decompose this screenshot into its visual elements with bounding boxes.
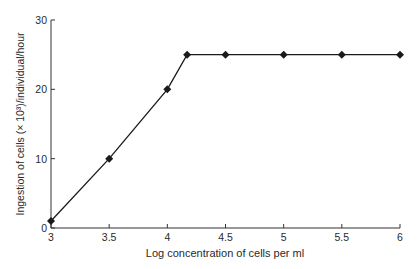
y-axis-label: Ingestion of cells (× 10³)/individual/ho… bbox=[14, 32, 26, 215]
data-point-diamond bbox=[396, 51, 404, 59]
x-tick-label: 5.5 bbox=[335, 231, 350, 243]
y-tick-label: 20 bbox=[35, 83, 47, 95]
line-chart: 33.544.555.560102030 Log concentration o… bbox=[0, 0, 417, 269]
chart-svg: 33.544.555.560102030 Log concentration o… bbox=[0, 0, 417, 269]
x-tick-label: 4 bbox=[164, 231, 170, 243]
data-series bbox=[47, 51, 404, 225]
data-point-diamond bbox=[280, 51, 288, 59]
data-point-diamond bbox=[183, 51, 191, 59]
x-axis-label: Log concentration of cells per ml bbox=[146, 247, 304, 259]
y-tick-label: 10 bbox=[35, 153, 47, 165]
data-point-diamond bbox=[338, 51, 346, 59]
x-tick-label: 6 bbox=[397, 231, 403, 243]
x-tick-label: 3 bbox=[48, 231, 54, 243]
axes: 33.544.555.560102030 bbox=[35, 14, 403, 243]
y-tick-label: 30 bbox=[35, 14, 47, 26]
x-tick-label: 3.5 bbox=[102, 231, 117, 243]
y-tick-label: 0 bbox=[41, 222, 47, 234]
x-tick-label: 4.5 bbox=[218, 231, 233, 243]
data-point-diamond bbox=[222, 51, 230, 59]
series-line bbox=[51, 55, 400, 221]
x-tick-label: 5 bbox=[281, 231, 287, 243]
